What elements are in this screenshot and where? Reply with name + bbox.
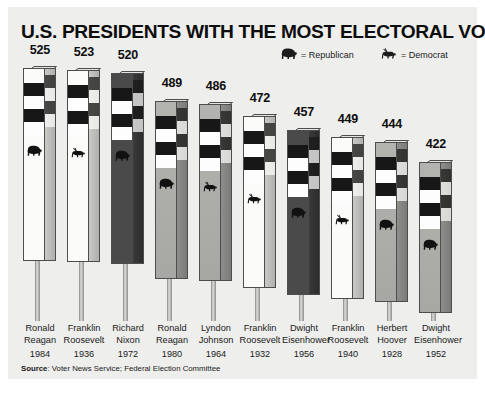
bar-post-side <box>133 73 144 264</box>
bar-stripe-side <box>353 144 363 157</box>
bar-stripe <box>112 127 132 140</box>
elephant-icon <box>158 176 174 194</box>
president-first-name: Franklin <box>62 323 106 335</box>
bar-post <box>375 135 409 302</box>
president-first-name: Dwight <box>282 323 326 335</box>
bar-3[interactable]: 520 <box>111 43 145 321</box>
bar-stripe <box>332 191 352 204</box>
axis-label-7: DwightEisenhower1956 <box>282 323 326 361</box>
bar-post-face <box>155 101 177 279</box>
axis-label-4: RonaldReagan1980 <box>150 323 194 361</box>
bar-stripe-side <box>309 163 319 176</box>
bar-stripe-side <box>441 195 451 208</box>
bar-stripe-side <box>265 136 275 149</box>
bar-stem <box>123 260 128 321</box>
donkey-icon <box>246 191 262 209</box>
elephant-icon <box>26 143 42 161</box>
bar-stripe-side <box>45 101 55 114</box>
bar-value-label: 525 <box>23 43 57 57</box>
bar-stripe-side <box>353 157 363 170</box>
bar-post-side <box>397 142 408 302</box>
source-prefix: Source <box>21 364 47 373</box>
source-note: Source: Voter News Service; Federal Elec… <box>21 364 220 373</box>
bar-stripe <box>420 190 440 203</box>
bar-stripe <box>288 184 308 197</box>
bar-stem <box>79 258 84 321</box>
election-year: 1928 <box>370 349 414 361</box>
elephant-icon <box>290 205 306 223</box>
bar-post-face <box>331 137 353 299</box>
bar-1[interactable]: 525 <box>23 43 57 321</box>
bar-stem <box>211 277 216 321</box>
bar-4[interactable]: 489 <box>155 43 189 321</box>
bar-stripe <box>24 83 44 96</box>
bar-stripe-side <box>265 123 275 136</box>
donkey-icon <box>202 179 218 197</box>
president-first-name: Ronald <box>18 323 62 335</box>
bar-stripe-side <box>353 170 363 183</box>
bar-stripe <box>68 98 88 111</box>
bar-stripe-side <box>89 90 99 103</box>
bar-stripe <box>376 196 396 209</box>
president-last-name: Roosevelt <box>238 335 282 347</box>
donkey-icon <box>70 145 86 163</box>
bar-stripe-side <box>309 137 319 150</box>
bar-stripe-side <box>133 119 143 132</box>
donkey-icon <box>334 212 350 230</box>
bar-value-label: 486 <box>199 79 233 93</box>
bar-stripe <box>376 170 396 183</box>
president-first-name: Lyndon <box>194 323 238 335</box>
election-year: 1940 <box>326 349 370 361</box>
bar-stripe <box>24 96 44 109</box>
axis-label-3: RichardNixon1972 <box>106 323 150 361</box>
source-text: : Voter News Service; Federal Election C… <box>47 364 220 373</box>
axis-label-9: HerbertHoover1928 <box>370 323 414 361</box>
bar-stripe <box>288 171 308 184</box>
bar-stripe-side <box>309 176 319 189</box>
bar-post <box>331 130 365 299</box>
axis-label-6: FranklinRoosevelt1932 <box>238 323 282 361</box>
bar-stripe <box>420 203 440 216</box>
bar-7[interactable]: 457 <box>287 43 321 321</box>
bar-stripe <box>332 178 352 191</box>
election-year: 1984 <box>18 349 62 361</box>
bar-stripe-side <box>397 175 407 188</box>
bar-stripe <box>200 145 220 158</box>
bar-stripe <box>332 152 352 165</box>
president-last-name: Eisenhower <box>282 335 326 347</box>
bar-stripe-side <box>441 169 451 182</box>
bar-post-side <box>221 104 232 281</box>
bar-post-face <box>375 142 397 302</box>
bar-10[interactable]: 422 <box>419 43 453 321</box>
bar-post-face <box>111 73 133 264</box>
bar-stripe <box>24 109 44 122</box>
bar-stripe <box>200 158 220 171</box>
bar-stripe <box>68 111 88 124</box>
bar-post-side <box>45 68 56 261</box>
bar-stripe-side <box>45 114 55 127</box>
bar-9[interactable]: 444 <box>375 43 409 321</box>
bar-stripe-side <box>45 75 55 88</box>
bar-stripe <box>156 155 176 168</box>
bar-stripe-side <box>221 124 231 137</box>
bar-stripe-side <box>133 80 143 93</box>
bar-post-face <box>287 130 309 295</box>
president-first-name: Franklin <box>326 323 370 335</box>
bar-5[interactable]: 486 <box>199 43 233 321</box>
election-year: 1952 <box>414 349 458 361</box>
bar-stripe-side <box>397 162 407 175</box>
bar-8[interactable]: 449 <box>331 43 365 321</box>
president-last-name: Hoover <box>370 335 414 347</box>
bar-stripe <box>332 165 352 178</box>
bar-stripe-side <box>177 147 187 160</box>
president-last-name: Eisenhower <box>414 335 458 347</box>
axis-label-5: LyndonJohnson1964 <box>194 323 238 361</box>
bar-stripe <box>200 132 220 145</box>
x-axis-labels: RonaldReagan1984FranklinRoosevelt1936Ric… <box>21 323 467 363</box>
bar-stripe-side <box>177 134 187 147</box>
bar-6[interactable]: 472 <box>243 43 277 321</box>
axis-label-1: RonaldReagan1984 <box>18 323 62 361</box>
bar-stripe-side <box>221 137 231 150</box>
bar-2[interactable]: 523 <box>67 43 101 321</box>
election-year: 1980 <box>150 349 194 361</box>
